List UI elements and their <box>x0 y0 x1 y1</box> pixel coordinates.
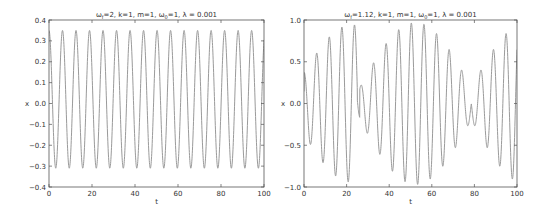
y-tick-label: −0.2 <box>29 142 46 150</box>
y-axis-label: x <box>281 100 285 108</box>
x-tick-label: 20 <box>342 190 351 198</box>
y-tick-label: 0.2 <box>35 58 46 66</box>
y-tick-label: 0.1 <box>35 79 46 87</box>
y-tick-label: 0.0 <box>290 100 301 108</box>
x-tick-label: 40 <box>385 190 394 198</box>
chart-title: ωf=2, k=1, m=1, ω0=1, λ = 0.001 <box>96 11 217 20</box>
x-tick-label: 100 <box>510 190 523 198</box>
x-tick-label: 100 <box>257 190 270 198</box>
plot-frame <box>304 20 517 187</box>
x-axis-label: t <box>155 198 158 206</box>
x-tick-label: 0 <box>47 190 51 198</box>
x-tick-label: 60 <box>427 190 436 198</box>
y-tick-label: 0.5 <box>290 58 301 66</box>
data-line <box>304 23 517 184</box>
y-tick-label: −0.3 <box>29 163 46 171</box>
x-tick-label: 60 <box>174 190 183 198</box>
x-tick-label: 40 <box>131 190 140 198</box>
y-tick-label: −1.0 <box>284 184 301 192</box>
x-tick-label: 80 <box>217 190 226 198</box>
plot-frame <box>49 20 264 187</box>
y-tick-label: 1.0 <box>290 17 301 25</box>
chart-left: 020406080100−0.4−0.3−0.2−0.10.00.10.20.3… <box>0 0 546 206</box>
y-tick-label: −0.1 <box>29 121 46 129</box>
y-tick-label: 0.3 <box>35 37 46 45</box>
y-tick-label: 0.4 <box>35 17 47 25</box>
x-tick-label: 0 <box>302 190 306 198</box>
y-axis-label: x <box>25 100 29 108</box>
chart-title: ωf=1.12, k=1, m=1, ω0=1, λ = 0.001 <box>344 11 476 20</box>
x-tick-label: 80 <box>470 190 479 198</box>
x-axis-label: t <box>409 198 412 206</box>
plot-left: 020406080100−0.4−0.3−0.2−0.10.00.10.20.3… <box>25 11 271 206</box>
data-line <box>49 30 264 168</box>
y-tick-label: −0.5 <box>284 142 301 150</box>
y-tick-label: −0.4 <box>29 184 47 192</box>
y-tick-label: 0.0 <box>35 100 46 108</box>
x-tick-label: 20 <box>88 190 97 198</box>
plot-right: 020406080100−1.0−0.50.00.51.0txωf=1.12, … <box>281 11 524 206</box>
